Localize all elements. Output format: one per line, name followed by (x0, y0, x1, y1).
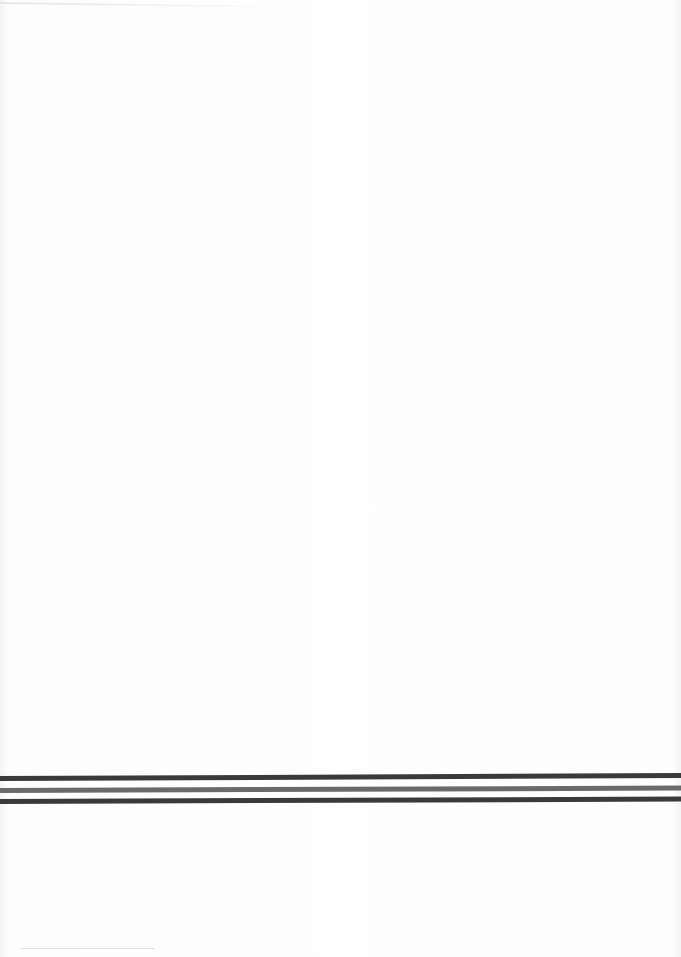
horizontal-rule-1 (0, 773, 681, 781)
horizontal-rule-2 (0, 786, 681, 793)
scan-edge-top (0, 2, 280, 8)
scan-edge-bottom (20, 948, 155, 949)
document-page (0, 0, 681, 957)
horizontal-rule-3 (0, 797, 681, 804)
